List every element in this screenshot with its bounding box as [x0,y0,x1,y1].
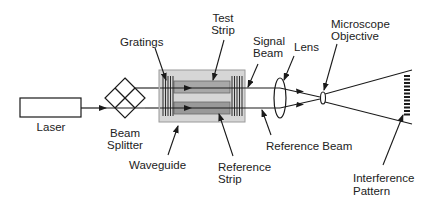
beam-splitter-label-line1: Beam [102,127,148,139]
beam-splitter-label-line2: Splitter [102,139,148,151]
microscope-objective-label-line1: Microscope [331,18,390,30]
lens-label: Lens [294,41,319,53]
lens-icon [274,78,286,118]
interference-pattern-label-line1: Interference [353,172,414,184]
signal-beam-label-line1: Signal [253,35,285,47]
test-strip-label-line1: Test [204,12,242,24]
reference-strip-label-line2: Strip [218,173,242,185]
beam-splitter-icon [105,78,145,118]
reference-strip-label-line1: Reference [218,161,271,173]
reference-beam-label: Reference Beam [266,140,352,152]
laser-label: Laser [28,121,74,133]
microscope-objective-icon [321,92,326,104]
interference-pattern-label-line2: Pattern [353,185,390,197]
laser-box [20,98,81,117]
interference-pattern-icon [404,75,410,116]
signal-beam-label-line2: Beam [253,47,283,59]
test-strip-label-line2: Strip [204,24,242,36]
waveguide-label: Waveguide [129,159,186,171]
test-strip [174,81,230,93]
microscope-objective-label-line2: Objective [331,30,379,42]
gratings-label: Gratings [120,36,163,48]
